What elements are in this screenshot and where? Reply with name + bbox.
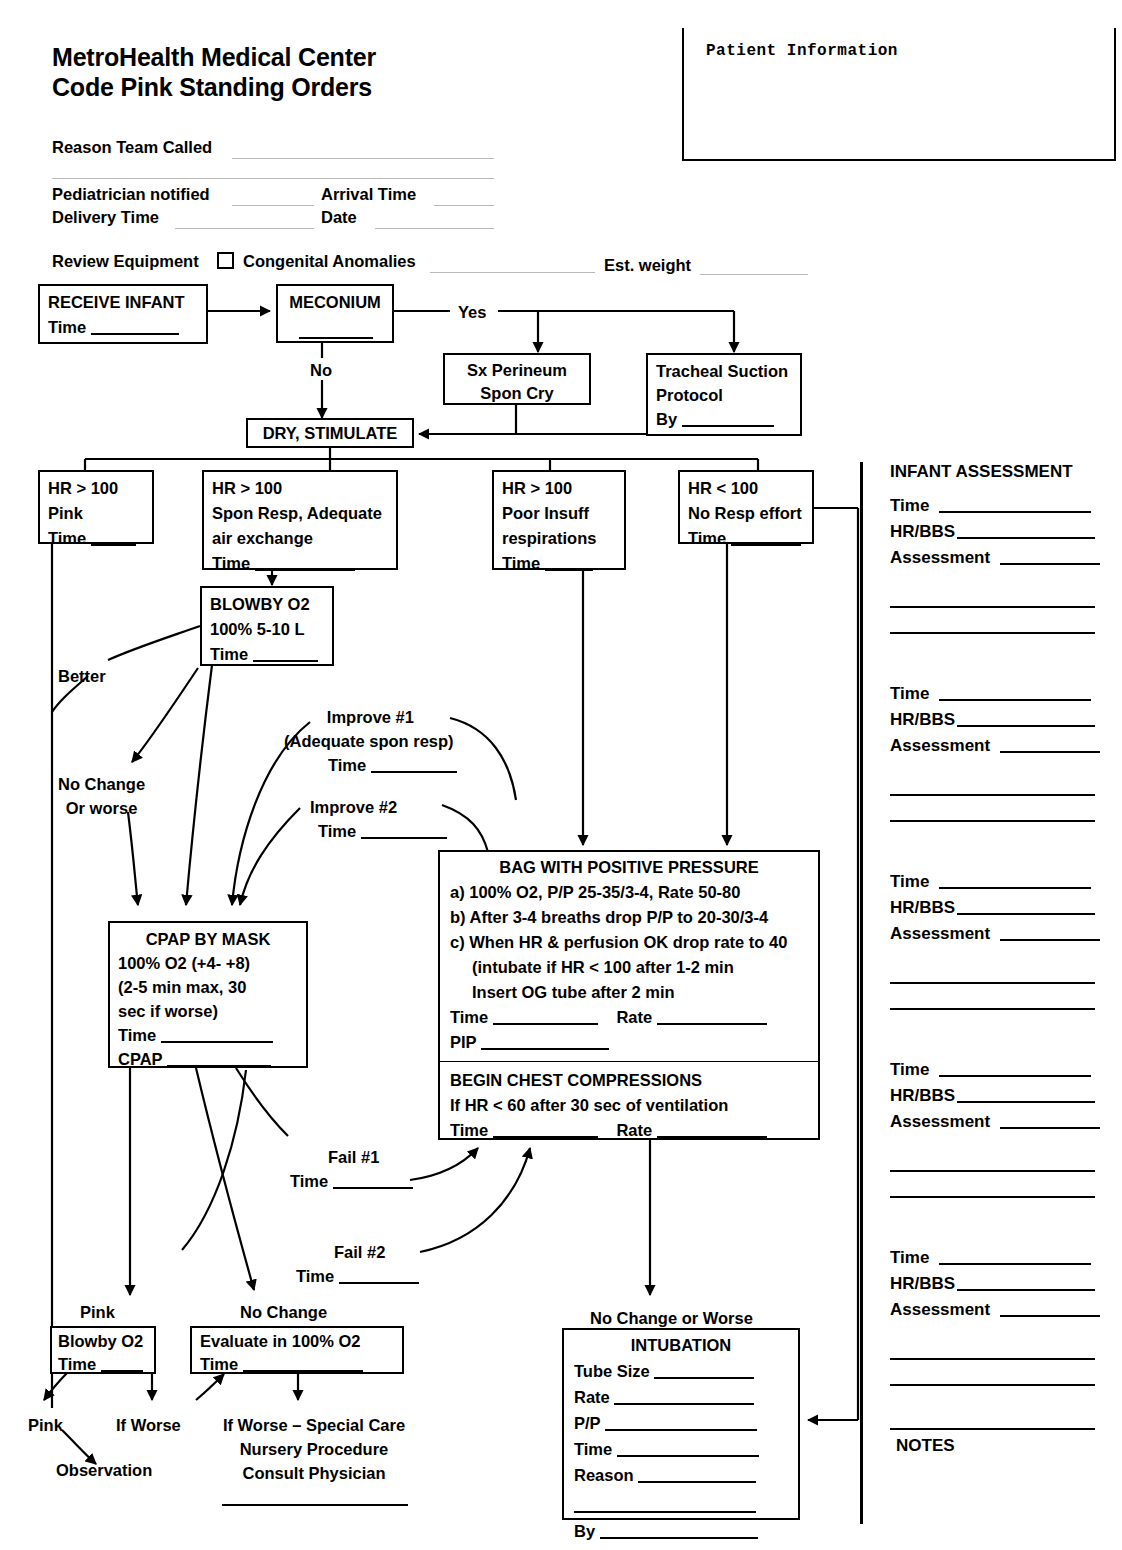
intubation-reason-input-2[interactable]: [574, 1497, 756, 1513]
pediatrician-notified-input[interactable]: [232, 205, 314, 206]
assessment-note-input-3[interactable]: [1000, 925, 1100, 941]
assessment-time-input-1[interactable]: [939, 497, 1091, 513]
fail-1-time-input[interactable]: [333, 1173, 413, 1189]
evaluate-100-o2-box[interactable]: Evaluate in 100% O2 Time: [190, 1326, 404, 1374]
special-care-line-1: If Worse – Special Care: [202, 1413, 426, 1437]
no-change-or-worse-label: No Change Or worse: [58, 772, 145, 820]
fail-2-time-input[interactable]: [339, 1268, 419, 1284]
receive-infant-time-input[interactable]: [91, 319, 179, 335]
assessment-blank-line-2-2[interactable]: [890, 820, 1095, 822]
hr-no-resp-time-input[interactable]: [731, 530, 801, 546]
tracheal-suction-by-input[interactable]: [682, 411, 774, 427]
assessment-hrbbs-input-4[interactable]: [957, 1087, 1095, 1103]
assessment-blank-line-1-2[interactable]: [890, 632, 1095, 634]
meconium-box[interactable]: MECONIUM: [276, 284, 394, 343]
improve-2-time-input[interactable]: [361, 823, 447, 839]
special-care-signature-line[interactable]: [222, 1504, 408, 1506]
compressions-rate-input[interactable]: [657, 1122, 767, 1138]
compressions-line-2: If HR < 60 after 30 sec of ventilation: [450, 1093, 808, 1118]
sx-perineum-box[interactable]: Sx Perineum Spon Cry: [443, 353, 591, 405]
bag-pip-input[interactable]: [481, 1034, 609, 1050]
assessment-blank-line-2-1[interactable]: [890, 794, 1095, 796]
assessment-blank-line-1-1[interactable]: [890, 606, 1095, 608]
code-pink-standing-orders-page: MetroHealth Medical Center Code Pink Sta…: [0, 0, 1122, 1550]
assessment-time-label: Time: [890, 872, 929, 891]
intubation-pp-input[interactable]: [605, 1415, 757, 1431]
evaluate-time-input[interactable]: [243, 1356, 363, 1372]
hr-pink-box[interactable]: HR > 100 Pink Time: [38, 470, 154, 544]
meconium-input[interactable]: [299, 323, 373, 339]
hr-pink-line-2: Pink: [48, 501, 144, 526]
assessment-hrbbs-input-2[interactable]: [957, 711, 1095, 727]
intubation-rate-input[interactable]: [614, 1389, 754, 1405]
pediatrician-notified-label: Pediatrician notified: [52, 185, 210, 204]
assessment-note-input-1[interactable]: [1000, 549, 1100, 565]
hr-no-resp-time-label: Time: [688, 529, 726, 547]
bag-time-label: Time: [450, 1008, 488, 1026]
reason-team-called-input[interactable]: [232, 158, 494, 159]
hr-spon-resp-line-1: HR > 100: [212, 476, 388, 501]
improve-1-time-input[interactable]: [371, 757, 457, 773]
assessment-blank-line-5-1[interactable]: [890, 1358, 1095, 1360]
intubation-by-input[interactable]: [600, 1523, 758, 1539]
hr-spon-resp-time-input[interactable]: [255, 555, 355, 571]
assessment-time-input-5[interactable]: [939, 1249, 1091, 1265]
hr-poor-insuff-box[interactable]: HR > 100 Poor Insuff respirations Time: [492, 470, 626, 570]
assessment-blank-line-3-1[interactable]: [890, 982, 1095, 984]
cpap-pressure-input[interactable]: [167, 1051, 271, 1067]
assessment-time-input-3[interactable]: [939, 873, 1091, 889]
bag-positive-pressure-box[interactable]: BAG WITH POSITIVE PRESSURE a) 100% O2, P…: [438, 850, 820, 1140]
dry-stimulate-box[interactable]: DRY, STIMULATE: [246, 418, 414, 448]
est-weight-input[interactable]: [700, 274, 808, 275]
assessment-note-input-5[interactable]: [1000, 1301, 1100, 1317]
assessment-time-input-2[interactable]: [939, 685, 1091, 701]
cpap-time-input[interactable]: [161, 1027, 273, 1043]
compressions-time-input[interactable]: [493, 1122, 598, 1138]
assessment-blank-line-3-2[interactable]: [890, 1008, 1095, 1010]
blowby-o2-box[interactable]: BLOWBY O2 100% 5-10 L Time: [200, 586, 334, 666]
assessment-hrbbs-row-5: HR/BBS: [890, 1274, 1095, 1294]
receive-infant-box[interactable]: RECEIVE INFANT Time: [38, 284, 208, 344]
assessment-hrbbs-input-3[interactable]: [957, 899, 1095, 915]
assessment-hrbbs-input-1[interactable]: [957, 523, 1095, 539]
arrival-time-input[interactable]: [434, 205, 494, 206]
assessment-hrbbs-input-5[interactable]: [957, 1275, 1095, 1291]
intubation-by-label: By: [574, 1522, 595, 1540]
assessment-blank-line-4-2[interactable]: [890, 1196, 1095, 1198]
assessment-blank-line-4-1[interactable]: [890, 1170, 1095, 1172]
hr-spon-resp-box[interactable]: HR > 100 Spon Resp, Adequate air exchang…: [202, 470, 398, 570]
bag-rate-input[interactable]: [657, 1009, 767, 1025]
assessment-blank-line-5-2[interactable]: [890, 1384, 1095, 1386]
patient-information-box[interactable]: Patient Information: [682, 28, 1116, 161]
intubation-reason-input[interactable]: [638, 1467, 756, 1483]
blowby-o2-small-box[interactable]: Blowby O2 Time: [50, 1326, 156, 1374]
assessment-note-input-4[interactable]: [1000, 1113, 1100, 1129]
fail-1-group: Fail #1 Time: [290, 1145, 413, 1193]
special-care-line-2: Nursery Procedure: [202, 1437, 426, 1461]
reason-team-called-input-2[interactable]: [52, 178, 494, 179]
intubation-box[interactable]: INTUBATION Tube Size Rate P/P Time Reaso…: [562, 1328, 800, 1520]
cpap-line-2: 100% O2 (+4- +8): [118, 951, 298, 975]
assessment-time-input-4[interactable]: [939, 1061, 1091, 1077]
bag-time-input[interactable]: [493, 1009, 598, 1025]
date-input[interactable]: [375, 228, 494, 229]
cpap-by-mask-box[interactable]: CPAP BY MASK 100% O2 (+4- +8) (2-5 min m…: [108, 921, 308, 1068]
est-weight-label: Est. weight: [604, 256, 691, 275]
assessment-time-label: Time: [890, 496, 929, 515]
intubation-tube-size-input[interactable]: [654, 1363, 754, 1379]
blowby-time-input[interactable]: [253, 646, 318, 662]
tracheal-suction-box[interactable]: Tracheal Suction Protocol By: [646, 353, 802, 436]
hr-pink-time-input[interactable]: [91, 530, 136, 546]
blowby-small-time-input[interactable]: [101, 1356, 143, 1372]
improve-1-time-label: Time: [328, 756, 366, 774]
congenital-anomalies-input[interactable]: [430, 272, 595, 273]
hr-no-resp-box[interactable]: HR < 100 No Resp effort Time: [678, 470, 814, 544]
delivery-time-input[interactable]: [175, 228, 314, 229]
evaluate-time-label: Time: [200, 1355, 238, 1373]
assessment-note-input-2[interactable]: [1000, 737, 1100, 753]
intubation-time-input[interactable]: [617, 1441, 759, 1457]
congenital-anomalies-checkbox[interactable]: [217, 252, 234, 269]
no-change-or-worse-bottom-label: No Change or Worse: [590, 1306, 753, 1330]
cpap-time-label: Time: [118, 1026, 156, 1044]
hr-poor-time-input[interactable]: [545, 555, 593, 571]
